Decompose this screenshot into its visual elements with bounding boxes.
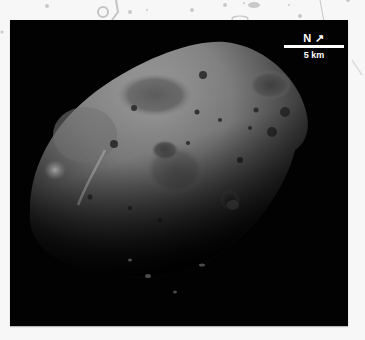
north-label: N — [303, 32, 311, 44]
scale-bar-line — [284, 45, 344, 48]
moon-photo-panel: N ↗ 5 km — [10, 20, 348, 326]
scale-distance-label: 5 km — [284, 50, 344, 60]
north-indicator: N ↗ — [284, 32, 344, 44]
north-arrow-icon: ↗ — [315, 32, 325, 44]
moon-image — [10, 20, 348, 326]
scale-bar: N ↗ 5 km — [284, 32, 344, 60]
